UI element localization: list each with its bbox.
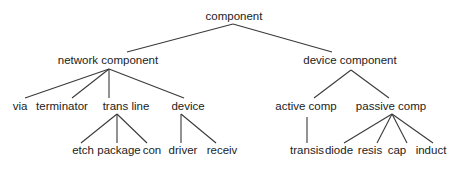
node-driver: driver (169, 144, 198, 156)
node-trans-line: trans line (103, 100, 150, 112)
node-package: package (97, 144, 140, 156)
node-active-comp: active comp (275, 100, 336, 112)
edge-device-component-to-active-comp (314, 70, 351, 98)
component-hierarchy-tree: componentnetwork componentdevice compone… (0, 0, 468, 169)
node-terminator: terminator (36, 100, 88, 112)
node-cap: cap (388, 144, 407, 156)
edge-network-component-to-terminator (72, 69, 109, 98)
edge-passive-comp-to-induct (392, 114, 433, 143)
edge-trans-line-to-con (117, 114, 147, 143)
edge-passive-comp-to-cap (392, 114, 407, 143)
edge-device-to-receiv (181, 114, 216, 143)
tree-edges (25, 24, 433, 143)
node-device: device (171, 100, 204, 112)
edge-device-component-to-passive-comp (351, 70, 389, 98)
node-receiv: receiv (207, 144, 238, 156)
node-transis: transis (290, 144, 324, 156)
node-diode: diode (325, 144, 353, 156)
node-component: component (206, 10, 264, 22)
edge-component-to-device-component (233, 24, 332, 52)
edge-trans-line-to-etch (81, 114, 117, 143)
node-passive-comp: passive comp (356, 100, 426, 112)
node-con: con (143, 144, 162, 156)
node-via: via (13, 100, 28, 112)
node-resis: resis (358, 144, 383, 156)
edge-network-component-to-device (109, 69, 184, 98)
edge-network-component-to-via (25, 69, 109, 98)
node-etch: etch (72, 144, 94, 156)
node-network-component: network component (58, 54, 159, 66)
node-device-component: device component (303, 54, 397, 66)
edge-component-to-network-component (127, 24, 233, 52)
node-induct: induct (416, 144, 447, 156)
